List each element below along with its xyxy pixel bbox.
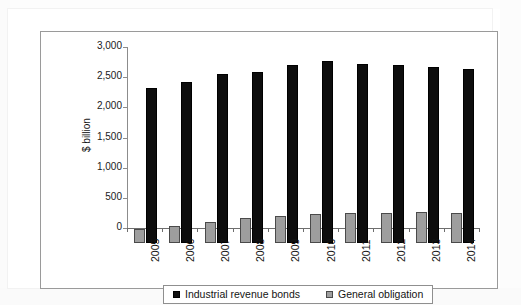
bar-industrial-revenue-bonds [217,74,228,243]
legend-item: General obligation [326,288,423,300]
bar-general-obligation [275,216,286,243]
bar-general-obligation [134,229,145,243]
y-tick-label: 3,000 [97,40,122,51]
legend-swatch-icon [173,291,180,298]
x-tick-mark [409,228,410,232]
bar-general-obligation [240,218,251,243]
x-axis-label: 2007 [219,239,231,262]
bar-general-obligation [169,226,180,243]
paper-margin-right [500,0,521,305]
x-axis-label: 2005 [149,239,161,262]
bar-general-obligation [416,212,427,243]
legend-item: Industrial revenue bonds [173,288,300,300]
x-tick-mark [479,228,480,232]
x-tick-mark [233,228,234,232]
y-axis-title: $ billion [81,118,92,152]
y-tick-mark [123,168,128,169]
bar-industrial-revenue-bonds [181,82,192,243]
bar-industrial-revenue-bonds [287,65,298,243]
x-axis-label: 2006 [184,239,196,262]
bar-general-obligation [451,213,462,243]
y-tick-mark [123,77,128,78]
y-tick: 2,000 [127,107,128,108]
y-tick: 2,500 [127,77,128,78]
y-tick-label: 0 [116,221,122,232]
y-tick-mark [123,107,128,108]
y-tick-label: 2,000 [97,100,122,111]
y-tick-mark [123,198,128,199]
bar-general-obligation [310,214,321,243]
bar-industrial-revenue-bonds [428,67,439,243]
y-tick-label: 1,000 [97,161,122,172]
x-tick-mark [373,228,374,232]
x-axis-label: 2010 [325,239,337,262]
y-tick-label: 2,500 [97,70,122,81]
legend-label: Industrial revenue bonds [185,288,300,300]
bar-industrial-revenue-bonds [357,64,368,243]
y-tick-mark [123,47,128,48]
x-axis-label: 2009 [289,239,301,262]
bar-industrial-revenue-bonds [463,69,474,243]
x-axis-label: 2008 [254,239,266,262]
x-tick-mark [444,228,445,232]
x-axis-label: 2014 [465,239,477,262]
y-tick: 1,500 [127,138,128,139]
bar-industrial-revenue-bonds [146,88,157,243]
x-tick-mark [197,228,198,232]
bar-industrial-revenue-bonds [393,65,404,243]
y-tick: 1,000 [127,168,128,169]
x-tick-mark [338,228,339,232]
bar-industrial-revenue-bonds [322,61,333,243]
bar-general-obligation [381,213,392,243]
x-tick-mark [268,228,269,232]
y-tick-mark [123,138,128,139]
chart-frame: $ billion 05001,0001,5002,0002,5003,000 … [40,31,498,289]
x-axis-label: 2011 [360,239,372,262]
y-tick: 500 [127,198,128,199]
y-tick-label: 1,500 [97,131,122,142]
bar-industrial-revenue-bonds [252,72,263,243]
bar-general-obligation [345,213,356,243]
bar-general-obligation [205,222,216,243]
x-tick-mark [127,228,128,232]
plot-area: 05001,0001,5002,0002,5003,000 [127,47,482,243]
legend-swatch-icon [326,291,333,298]
x-axis-label: 2012 [395,239,407,262]
legend-label: General obligation [338,288,423,300]
chart-legend: Industrial revenue bondsGeneral obligati… [163,285,433,304]
figure-container: $ billion 05001,0001,5002,0002,5003,000 … [8,9,492,288]
x-axis-label: 2013 [430,239,442,262]
y-tick: 3,000 [127,47,128,48]
x-tick-mark [162,228,163,232]
x-tick-mark [303,228,304,232]
y-tick-label: 500 [105,191,122,202]
paper-margin-top [0,0,521,9]
